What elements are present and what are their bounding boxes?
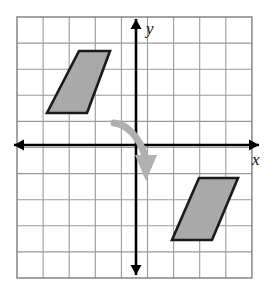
figure-root: x y <box>0 0 274 282</box>
coordinate-plane: x y <box>0 0 274 282</box>
y-axis-label: y <box>144 19 154 38</box>
x-axis-label: x <box>251 150 260 169</box>
